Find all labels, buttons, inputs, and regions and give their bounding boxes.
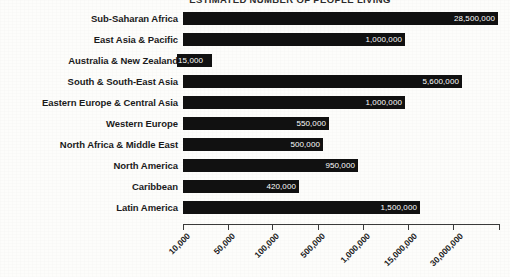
category-label: Sub-Saharan Africa [0,12,178,25]
x-axis-tick [228,224,229,230]
bar[interactable]: 420,000 [183,180,299,193]
bar[interactable]: 5,600,000 [183,75,462,88]
bar-row: North America 950,000 [0,159,510,179]
bar-value-label: 950,000 [325,159,355,172]
bar-row: North Africa & Middle East 500,000 [0,138,510,158]
x-axis-tick [408,224,409,230]
category-label: Western Europe [0,117,178,130]
bar[interactable]: 1,000,000 [183,33,405,46]
bar-value-label: 1,000,000 [366,96,403,109]
bar-row: Sub-Saharan Africa 28,500,000 [0,12,510,32]
category-label: Caribbean [0,180,178,193]
bar[interactable]: 950,000 [183,159,358,172]
x-tick-label: 1,000,000 [338,231,372,265]
bar-row: Western Europe 550,000 [0,117,510,137]
x-axis-tick [318,224,319,230]
x-axis-tick [499,224,500,230]
x-tick-label: 30,000,000 [428,231,465,268]
bar-row: South & South-East Asia 5,600,000 [0,75,510,95]
bar-row: Australia & New Zealand 15,000 [0,54,510,74]
bar[interactable]: 500,000 [183,138,323,151]
plot-area: Sub-Saharan Africa 28,500,000 East Asia … [0,12,510,224]
x-axis-tick [272,224,273,230]
bar[interactable]: 28,500,000 [183,12,498,25]
bar[interactable]: 1,500,000 [183,201,420,214]
category-label: North Africa & Middle East [0,138,178,151]
bar-value-label: 1,500,000 [381,201,418,214]
x-axis-tick [363,224,364,230]
bar-value-label: 420,000 [266,180,296,193]
bar[interactable]: 550,000 [183,117,329,130]
x-axis-tick [183,224,184,230]
x-axis-tick [453,224,454,230]
category-label: Latin America [0,201,178,214]
category-label: Eastern Europe & Central Asia [0,96,178,109]
category-label: South & South-East Asia [0,75,178,88]
bar-row: Caribbean 420,000 [0,180,510,200]
category-label: Australia & New Zealand [0,54,178,67]
x-tick-label: 100,000 [252,231,281,260]
x-tick-label: 50,000 [212,231,237,256]
bar-row: East Asia & Pacific 1,000,000 [0,33,510,53]
bar-value-label: 28,500,000 [454,12,495,25]
x-tick-label: 500,000 [298,231,327,260]
bar-value-label: 500,000 [290,138,320,151]
bar-row: Eastern Europe & Central Asia 1,000,000 [0,96,510,116]
bar-value-label: 550,000 [296,117,326,130]
category-label: North America [0,159,178,172]
category-label: East Asia & Pacific [0,33,178,46]
x-tick-label: 10,000 [167,231,192,256]
chart-title: ESTIMATED NUMBER OF PEOPLE LIVING [140,0,440,3]
bar-value-label: 1,000,000 [366,33,403,46]
bar[interactable]: 1,000,000 [183,96,405,109]
bar[interactable]: 15,000 [177,54,212,67]
bar-value-label: 15,000 [178,54,203,67]
bar-row: Latin America 1,500,000 [0,201,510,221]
x-tick-label: 15,000,000 [382,231,419,268]
bar-value-label: 5,600,000 [423,75,460,88]
chart-figure: ESTIMATED NUMBER OF PEOPLE LIVING Sub-Sa… [0,0,510,277]
